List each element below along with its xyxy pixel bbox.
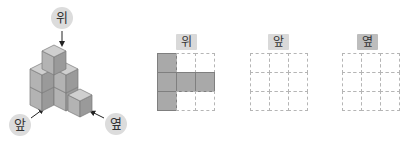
cube-figure: 위 앞 옆	[0, 0, 140, 141]
grid-cell[interactable]	[380, 72, 400, 92]
grid-cell[interactable]	[195, 53, 215, 73]
grid-cell[interactable]	[269, 91, 289, 111]
grid-cell[interactable]	[361, 72, 381, 92]
grid-cell[interactable]	[157, 53, 177, 73]
grid-cell[interactable]	[157, 91, 177, 111]
grid-cell[interactable]	[288, 91, 308, 111]
grid-cell[interactable]	[361, 91, 381, 111]
grid-cell[interactable]	[176, 53, 196, 73]
side-view-label: 옆	[357, 34, 378, 50]
grid-cell[interactable]	[250, 91, 270, 111]
front-view-badge: 앞	[9, 114, 31, 136]
side-view-grid	[342, 53, 399, 110]
grid-cell[interactable]	[342, 91, 362, 111]
grid-cell[interactable]	[176, 91, 196, 111]
grid-cell[interactable]	[288, 53, 308, 73]
top-view-badge: 위	[51, 7, 73, 29]
grid-cell[interactable]	[380, 53, 400, 73]
grid-cell[interactable]	[250, 53, 270, 73]
grid-cell[interactable]	[176, 72, 196, 92]
grid-cell[interactable]	[195, 91, 215, 111]
grid-cell[interactable]	[269, 53, 289, 73]
grid-cell[interactable]	[195, 72, 215, 92]
grid-cell[interactable]	[157, 72, 177, 92]
grid-cell[interactable]	[342, 72, 362, 92]
top-view-label: 위	[176, 34, 197, 50]
grid-cell[interactable]	[269, 72, 289, 92]
grid-cell[interactable]	[361, 53, 381, 73]
grid-cell[interactable]	[380, 91, 400, 111]
grid-cell[interactable]	[288, 72, 308, 92]
grid-cell[interactable]	[250, 72, 270, 92]
grid-cell[interactable]	[342, 53, 362, 73]
side-view-badge: 옆	[105, 113, 127, 135]
front-view-grid	[250, 53, 307, 110]
top-view-grid	[157, 53, 214, 110]
front-view-label: 앞	[268, 34, 289, 50]
